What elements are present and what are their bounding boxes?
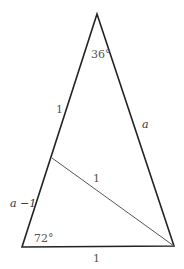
left-upper-side-label: 1: [56, 104, 63, 115]
base-label: 1: [93, 253, 100, 264]
bottom-left-angle-label: 72°: [34, 233, 54, 244]
apex-angle-label: 36°: [91, 49, 111, 60]
golden-triangle-diagram: [0, 0, 184, 269]
inner-segment-label: 1: [93, 173, 100, 184]
left-lower-side-label: a −1: [10, 198, 36, 209]
right-side-label: a: [142, 119, 149, 130]
inner-segment: [52, 158, 174, 246]
